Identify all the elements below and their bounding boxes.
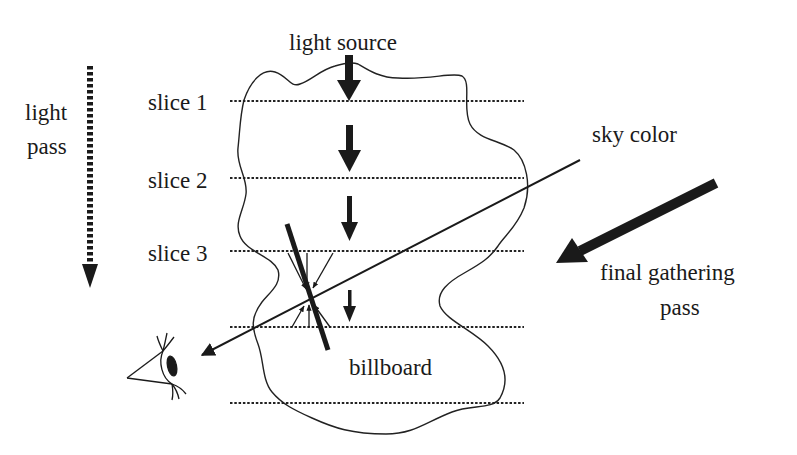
light-arrow-3 xyxy=(341,196,358,241)
light-arrow-4 xyxy=(343,290,356,322)
light-pass-arrow xyxy=(82,66,98,288)
final-gathering-label-line2: pass xyxy=(660,295,700,320)
billboard-label: billboard xyxy=(349,355,433,380)
light-pass-label-line2: pass xyxy=(27,134,67,159)
view-ray xyxy=(202,160,580,355)
final-gathering-label-line1: final gathering xyxy=(600,260,735,285)
slice-1-label: slice 1 xyxy=(148,90,207,115)
light-arrow-1 xyxy=(337,55,361,101)
slice-3-label: slice 3 xyxy=(148,241,207,266)
volume-rendering-diagram: light source light pass slice 1 slice 2 … xyxy=(0,0,797,455)
billboard xyxy=(287,224,333,350)
eye-icon xyxy=(127,333,186,400)
final-gathering-arrow xyxy=(556,183,716,263)
slice-2-label: slice 2 xyxy=(148,168,207,193)
sky-color-label: sky color xyxy=(592,122,677,147)
light-arrow-2 xyxy=(338,125,361,172)
light-pass-label-line1: light xyxy=(25,100,68,125)
light-arrows xyxy=(337,55,361,322)
light-source-label: light source xyxy=(289,30,397,55)
